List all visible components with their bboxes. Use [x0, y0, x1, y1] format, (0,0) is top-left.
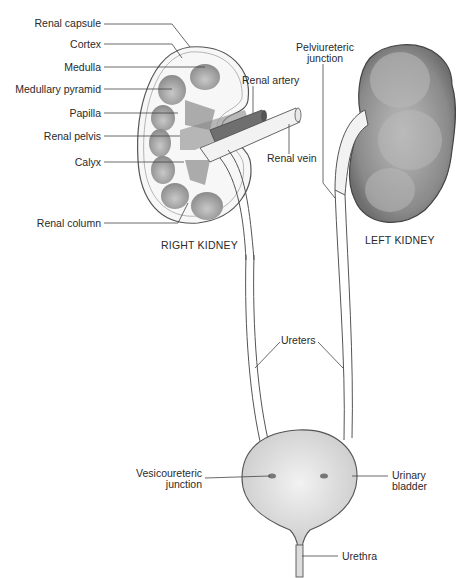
label-right-kidney: RIGHT KIDNEY: [161, 240, 238, 251]
label-ureters: Ureters: [281, 335, 315, 346]
ureters: [246, 190, 353, 450]
label-left-kidney: LEFT KIDNEY: [365, 235, 435, 246]
label-urinary-bladder-2: bladder: [392, 481, 427, 492]
label-cortex: Cortex: [0, 39, 101, 50]
label-renal-artery: Renal artery: [242, 75, 299, 86]
label-renal-pelvis: Renal pelvis: [0, 131, 101, 142]
urinary-bladder: [242, 430, 357, 577]
label-medulla: Medulla: [0, 62, 101, 73]
label-urethra: Urethra: [342, 551, 377, 562]
left-kidney: [335, 45, 455, 223]
label-calyx: Calyx: [0, 157, 101, 168]
label-papilla: Papilla: [0, 108, 101, 119]
label-renal-vein: Renal vein: [267, 153, 317, 164]
label-medullary-pyramid: Medullary pyramid: [0, 84, 101, 95]
label-vesicoureteric-junction-2: junction: [120, 479, 202, 490]
label-pelviureteric-junction-2: junction: [290, 53, 360, 64]
label-renal-capsule: Renal capsule: [0, 18, 101, 29]
label-renal-column: Renal column: [0, 218, 101, 229]
